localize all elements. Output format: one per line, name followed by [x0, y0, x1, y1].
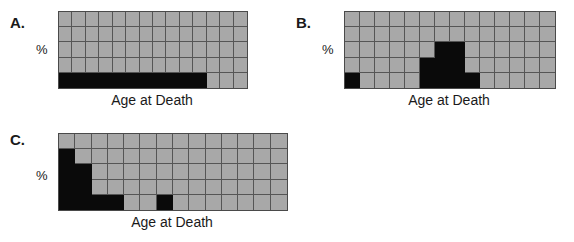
bar-cell-empty [220, 12, 233, 27]
bar-cell-empty [157, 149, 173, 164]
bar-cell-empty [495, 73, 510, 88]
bar-cell-empty [108, 134, 124, 149]
bar-cell-empty [193, 58, 206, 73]
bar-cell-filled [420, 73, 435, 88]
bar-cell-empty [495, 58, 510, 73]
bar-cell-empty [108, 149, 124, 164]
bar-cell-empty [113, 42, 126, 57]
bar-cell-filled [59, 180, 75, 195]
bar-cell-empty [234, 27, 247, 42]
bar-cell-empty [254, 134, 270, 149]
bar-cell-empty [124, 164, 140, 179]
bar-cell-empty [72, 12, 85, 27]
bar-cell-empty [153, 12, 166, 27]
bar-cell-empty [206, 164, 222, 179]
bar-cell-filled [86, 73, 99, 88]
bar-cell-empty [390, 42, 405, 57]
bar-cell-filled [75, 164, 91, 179]
bar-cell-empty [375, 27, 390, 42]
bar-cell-empty [375, 58, 390, 73]
bar-cell-empty [153, 42, 166, 57]
bar-cell-empty [405, 73, 420, 88]
bar-cell-empty [126, 12, 139, 27]
bar-cell-empty [180, 58, 193, 73]
bar-cell-empty [234, 58, 247, 73]
bar-cell-empty [390, 73, 405, 88]
bar-cell-empty [238, 180, 254, 195]
bar-cell-empty [75, 134, 91, 149]
bar-cell-empty [390, 58, 405, 73]
bar-cell-filled [72, 73, 85, 88]
bar-cell-empty [126, 58, 139, 73]
bar-cell-empty [207, 12, 220, 27]
bar-cell-empty [405, 58, 420, 73]
bar-cell-empty [72, 42, 85, 57]
panel-a-letter: A. [10, 14, 25, 31]
bar-cell-empty [140, 42, 153, 57]
bar-cell-empty [173, 134, 189, 149]
bar-cell-empty [99, 42, 112, 57]
bar-cell-empty [525, 42, 540, 57]
bar-cell-empty [540, 42, 555, 57]
bar-cell-empty [193, 12, 206, 27]
bar-cell-empty [59, 58, 72, 73]
bar-cell-empty [157, 134, 173, 149]
bar-cell-empty [173, 195, 189, 210]
panel-a-plot-grid [58, 11, 248, 89]
bar-cell-empty [450, 12, 465, 27]
bar-cell-filled [113, 73, 126, 88]
bar-cell-empty [206, 195, 222, 210]
bar-cell-empty [271, 149, 287, 164]
bar-cell-empty [86, 58, 99, 73]
bar-cell-empty [510, 73, 525, 88]
bar-cell-empty [206, 149, 222, 164]
bar-cell-empty [345, 12, 360, 27]
bar-cell-empty [510, 58, 525, 73]
panel-b-x-axis-label: Age at Death [344, 92, 554, 108]
bar-cell-empty [254, 164, 270, 179]
bar-cell-empty [480, 42, 495, 57]
bar-cell-empty [238, 134, 254, 149]
bar-cell-filled [92, 195, 108, 210]
bar-cell-empty [166, 42, 179, 57]
bar-cell-empty [390, 12, 405, 27]
bar-cell-empty [220, 27, 233, 42]
bar-cell-empty [124, 149, 140, 164]
bar-cell-empty [465, 12, 480, 27]
bar-cell-empty [254, 180, 270, 195]
bar-cell-empty [222, 149, 238, 164]
bar-cell-empty [465, 58, 480, 73]
panel-c-y-axis-label: % [36, 168, 48, 183]
bar-cell-empty [495, 42, 510, 57]
bar-cell-empty [510, 12, 525, 27]
bar-cell-empty [180, 42, 193, 57]
bar-cell-empty [92, 164, 108, 179]
bar-cell-empty [495, 27, 510, 42]
bar-cell-empty [140, 58, 153, 73]
bar-cell-empty [375, 42, 390, 57]
bar-cell-empty [166, 58, 179, 73]
bar-cell-empty [375, 73, 390, 88]
bar-cell-empty [360, 12, 375, 27]
bar-cell-filled [140, 73, 153, 88]
bar-cell-filled [59, 164, 75, 179]
bar-cell-empty [360, 58, 375, 73]
bar-cell-filled [435, 42, 450, 57]
panel-a-x-axis-label: Age at Death [58, 92, 246, 108]
bar-cell-empty [140, 12, 153, 27]
bar-cell-empty [157, 180, 173, 195]
bar-cell-empty [193, 42, 206, 57]
bar-cell-empty [126, 42, 139, 57]
bar-cell-empty [465, 42, 480, 57]
bar-cell-empty [254, 149, 270, 164]
bar-cell-filled [153, 73, 166, 88]
bar-cell-empty [206, 134, 222, 149]
bar-cell-empty [99, 12, 112, 27]
bar-cell-empty [271, 134, 287, 149]
bar-cell-empty [540, 58, 555, 73]
bar-cell-filled [435, 58, 450, 73]
bar-cell-filled [193, 73, 206, 88]
bar-cell-empty [220, 73, 233, 88]
bar-cell-empty [465, 27, 480, 42]
bar-cell-empty [525, 12, 540, 27]
